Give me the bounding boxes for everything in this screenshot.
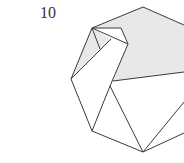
origami-diagram — [0, 0, 184, 163]
